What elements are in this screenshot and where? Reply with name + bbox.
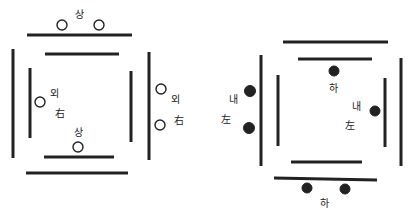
filled-circle-marker (340, 184, 350, 194)
label-top: 상 (75, 9, 84, 20)
open-circle-marker (73, 142, 83, 152)
open-circle-marker (155, 120, 165, 130)
label-right-outer: 외 (171, 94, 180, 105)
filled-circle-marker (370, 106, 380, 116)
open-circle-marker (156, 84, 166, 94)
label-top-inner: 하 (329, 82, 338, 94)
label-left-outer: 내 (229, 94, 238, 105)
left-figure: 상 외 右 상 외 右 (13, 9, 184, 173)
filled-circle-marker (329, 66, 339, 76)
right-outer-bottom-bar (274, 178, 377, 180)
filled-circle-marker (245, 86, 256, 97)
label-right-outer: 내 (352, 101, 361, 112)
label-right-inner: 右 (174, 114, 184, 126)
filled-circle-marker (302, 183, 312, 193)
label-right-inner: 左 (345, 119, 355, 131)
label-bottom: 하 (320, 197, 329, 209)
right-figure: 하 내 左 내 左 하 (221, 42, 401, 209)
filled-circle-marker (244, 123, 255, 134)
label-left-outer: 외 (50, 88, 59, 99)
open-circle-marker (57, 20, 67, 30)
open-circle-marker (94, 20, 104, 30)
label-left-inner: 左 (221, 113, 231, 125)
magnet-diagram: 상 외 右 상 외 右 하 내 左 내 左 하 (0, 0, 411, 215)
label-bottom-inner: 상 (74, 127, 83, 138)
label-left-inner: 右 (55, 107, 65, 119)
open-circle-marker (35, 97, 45, 107)
